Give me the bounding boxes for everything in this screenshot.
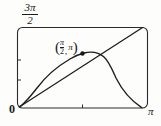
y-axis-max-label: 3π 2 — [15, 2, 45, 27]
point-x-numerator: π — [60, 39, 64, 47]
y-axis-max-denominator: 2 — [22, 15, 37, 26]
point-x-fraction: π 2 — [60, 39, 64, 57]
x-axis-max-label: π — [148, 106, 154, 117]
close-paren: ) — [73, 40, 78, 55]
point-x-denominator: 2 — [60, 48, 64, 56]
function-curve — [19, 52, 143, 108]
point-coordinate-annotation: ( π 2 , π ) — [55, 39, 78, 57]
y-axis-max-numerator: 3π — [22, 2, 37, 13]
origin-label: 0 — [9, 103, 15, 115]
point-comma: , — [65, 47, 67, 57]
math-figure: 3π 2 0 π ( π 2 , π ) — [0, 0, 161, 126]
marked-point-dot — [80, 51, 84, 55]
tangent-line — [19, 24, 149, 108]
